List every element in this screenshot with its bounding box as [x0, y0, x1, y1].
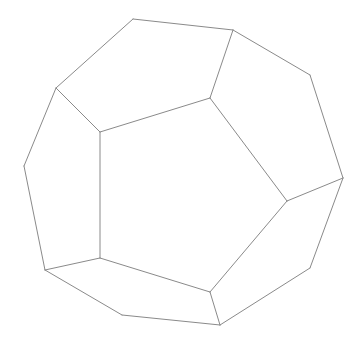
edge-f-g [122, 315, 220, 325]
dodecahedron-wireframe [0, 0, 361, 340]
edge-g-h [45, 270, 122, 315]
edge-a-b [133, 19, 233, 30]
edge-d-p3 [287, 178, 343, 201]
edge-c-d [310, 75, 343, 178]
edge-b-p2 [210, 30, 233, 98]
edge-j-a [56, 19, 133, 88]
edge-p4-p5 [100, 258, 210, 292]
edge-p3-p4 [210, 201, 287, 292]
edge-i-j [24, 88, 56, 166]
edge-b-c [233, 30, 310, 75]
edge-h-p5 [45, 258, 100, 270]
edge-p2-p3 [210, 98, 287, 201]
edge-j-p1 [56, 88, 100, 132]
edge-e-f [220, 268, 310, 325]
edge-d-e [310, 178, 343, 268]
edge-f-p4 [210, 292, 220, 325]
edge-h-i [24, 166, 45, 270]
edge-p1-p2 [100, 98, 210, 132]
dodecahedron-diagram [0, 0, 361, 340]
